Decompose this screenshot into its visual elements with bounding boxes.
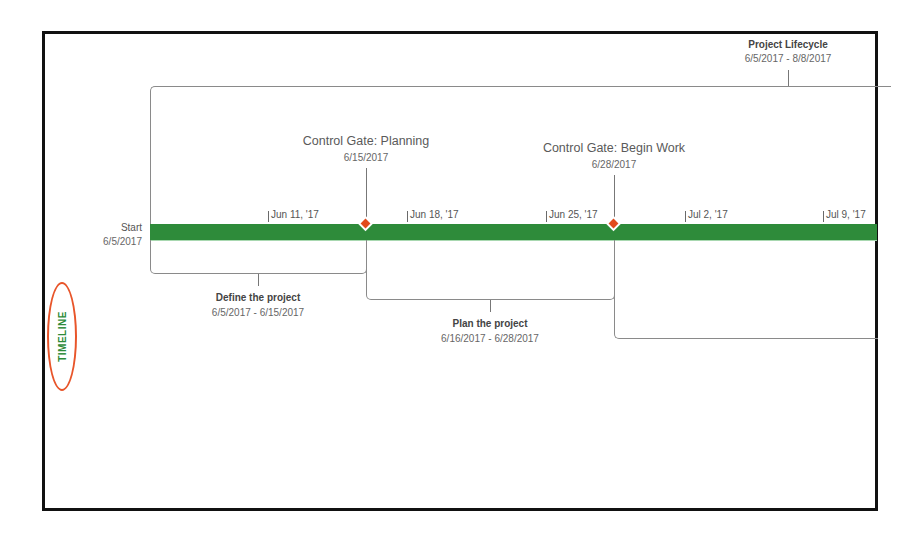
tick-label: Jul 9, '17 — [826, 209, 866, 220]
summary-task-title[interactable]: Project Lifecycle — [728, 39, 848, 50]
tick-mark — [268, 211, 269, 222]
task-define-title[interactable]: Define the project — [178, 292, 338, 303]
task-plan-title[interactable]: Plan the project — [410, 318, 570, 329]
milestone-planning-date: 6/15/2017 — [276, 152, 456, 163]
timeline-bar[interactable] — [150, 224, 877, 241]
summary-task-connector — [788, 70, 789, 86]
tick-mark — [685, 211, 686, 222]
milestone-planning-title[interactable]: Control Gate: Planning — [276, 134, 456, 148]
summary-task-dates: 6/5/2017 - 8/8/2017 — [728, 53, 848, 64]
tick-mark — [546, 211, 547, 222]
timeline-side-tab-label: TIMELINE — [57, 311, 68, 362]
milestone-begin-work-title[interactable]: Control Gate: Begin Work — [514, 141, 714, 155]
milestone-planning-connector — [366, 168, 367, 220]
milestone-begin-work-date: 6/28/2017 — [514, 159, 714, 170]
milestone-begin-work-connector — [614, 175, 615, 220]
tick-label: Jun 11, '17 — [271, 209, 319, 220]
tick-label: Jul 2, '17 — [688, 209, 728, 220]
start-date: 6/5/2017 — [103, 236, 142, 247]
tick-mark — [823, 211, 824, 222]
task-plan-connector — [490, 300, 491, 312]
task-define-bracket[interactable] — [150, 240, 367, 274]
start-label: Start — [121, 222, 142, 233]
task-define-dates: 6/5/2017 - 6/15/2017 — [178, 307, 338, 318]
tick-mark — [407, 211, 408, 222]
timeline-side-tab[interactable]: TIMELINE — [47, 282, 77, 391]
task-define-connector — [258, 274, 259, 286]
tick-label: Jun 18, '17 — [410, 209, 459, 220]
summary-task-bracket[interactable] — [150, 86, 891, 225]
task-plan-dates: 6/16/2017 - 6/28/2017 — [410, 333, 570, 344]
task-plan-bracket[interactable] — [366, 240, 615, 300]
task-next-bracket[interactable] — [614, 240, 878, 339]
tick-label: Jun 25, '17 — [549, 209, 598, 220]
